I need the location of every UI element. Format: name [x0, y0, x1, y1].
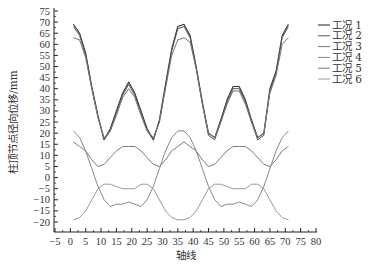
y-tick-label: 55 — [40, 50, 51, 61]
series-line-1 — [73, 24, 288, 140]
x-tick-label: 60 — [249, 236, 260, 247]
legend: 工况 1工况 2工况 3工况 4工况 5工况 6 — [318, 19, 362, 85]
x-tick-label: 10 — [96, 236, 107, 247]
y-tick-label: 35 — [40, 94, 51, 105]
x-axis-label: 轴线 — [176, 249, 197, 261]
x-tick-label: 80 — [311, 236, 322, 247]
y-axis-label: 柱顶节点径向位移/mm — [7, 70, 19, 173]
x-tick-label: 45 — [203, 236, 214, 247]
x-tick-label: 75 — [295, 236, 306, 247]
x-tick-label: 50 — [219, 236, 230, 247]
y-tick-label: −5 — [39, 183, 50, 194]
y-tick-label: 25 — [40, 117, 51, 128]
y-tick-label: 50 — [40, 61, 51, 72]
x-tick-label: 65 — [265, 236, 276, 247]
x-tick-label: 30 — [157, 236, 168, 247]
series-line-3 — [73, 38, 288, 138]
x-tick-label: 0 — [68, 236, 73, 247]
series-line-2 — [73, 27, 288, 140]
y-tick-label: 70 — [40, 17, 51, 28]
series-line-4 — [73, 131, 288, 207]
y-tick-label: −20 — [34, 217, 50, 228]
y-tick-label: −15 — [34, 205, 50, 216]
x-tick-label: 5 — [83, 236, 88, 247]
legend-item-6: 工况 6 — [318, 73, 362, 85]
x-tick-label: 20 — [127, 236, 138, 247]
x-tick-label: 15 — [111, 236, 122, 247]
y-tick-label: 5 — [45, 161, 50, 172]
y-tick-label: 60 — [40, 39, 51, 50]
series-line-5 — [73, 142, 288, 167]
y-tick-label: −10 — [34, 194, 50, 205]
y-tick-label: 45 — [40, 72, 51, 83]
y-tick-label: 65 — [40, 28, 51, 39]
y-tick-label: 30 — [40, 105, 51, 116]
y-tick-label: 20 — [40, 128, 51, 139]
x-tick-label: 55 — [234, 236, 245, 247]
legend-label: 工况 6 — [332, 73, 362, 85]
plot-series-group — [73, 24, 288, 220]
y-tick-label: 10 — [40, 150, 51, 161]
x-tick-label: −5 — [49, 236, 60, 247]
x-tick-label: 35 — [173, 236, 184, 247]
x-tick-label: 25 — [142, 236, 153, 247]
y-tick-label: 75 — [40, 6, 51, 17]
x-tick-label: 70 — [280, 236, 291, 247]
line-chart: −20−15−10−505101520253035404550556065707… — [0, 0, 368, 273]
y-tick-label: 0 — [45, 172, 50, 183]
y-tick-label: 40 — [40, 83, 51, 94]
y-tick-label: 15 — [40, 139, 51, 150]
x-tick-label: 40 — [188, 236, 199, 247]
